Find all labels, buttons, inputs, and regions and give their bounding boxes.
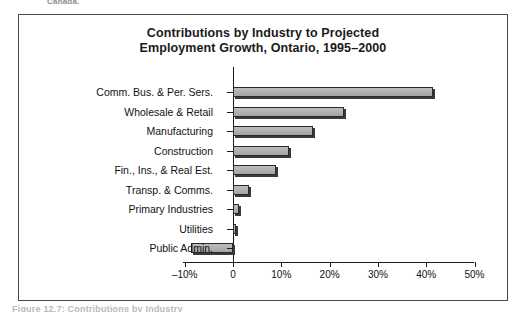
bar[interactable] bbox=[233, 165, 276, 175]
clipped-caption-below-figure: Figure 12.7: Contributions by Industry bbox=[12, 304, 183, 312]
category-tick bbox=[227, 131, 233, 132]
x-axis-tick bbox=[185, 262, 186, 267]
x-axis-tick bbox=[281, 262, 282, 267]
bar[interactable] bbox=[233, 107, 344, 117]
x-axis-line bbox=[183, 262, 474, 263]
category-tick bbox=[227, 92, 233, 93]
x-axis-tick bbox=[330, 262, 331, 267]
x-axis-tick-label: 40% bbox=[404, 269, 448, 280]
figure-container: Contributions by Industry to Projected E… bbox=[18, 14, 508, 301]
category-label: Construction bbox=[154, 145, 213, 157]
category-tick bbox=[227, 190, 233, 191]
x-axis-tick-label: 50% bbox=[453, 269, 497, 280]
category-label: Comm. Bus. & Per. Sers. bbox=[96, 86, 213, 98]
x-axis-tick-label: 20% bbox=[308, 269, 352, 280]
bar[interactable] bbox=[233, 185, 249, 195]
category-label: Manufacturing bbox=[146, 125, 213, 137]
category-tick bbox=[227, 112, 233, 113]
bar[interactable] bbox=[233, 204, 239, 214]
bar[interactable] bbox=[233, 87, 433, 97]
category-label: Wholesale & Retail bbox=[124, 106, 213, 118]
bar[interactable] bbox=[233, 146, 289, 156]
category-label: Primary Industries bbox=[128, 203, 213, 215]
bar[interactable] bbox=[233, 224, 236, 234]
bar[interactable] bbox=[233, 126, 313, 136]
x-axis-tick bbox=[233, 262, 234, 267]
category-label: Transp. & Comms. bbox=[126, 184, 213, 196]
x-axis-tick bbox=[475, 262, 476, 267]
category-tick bbox=[227, 229, 233, 230]
category-label: Utilities bbox=[179, 223, 213, 235]
plot-area: Comm. Bus. & Per. Sers.Wholesale & Retai… bbox=[19, 15, 509, 302]
x-axis-tick-label: 10% bbox=[259, 269, 303, 280]
clipped-text-above-figure: Canada. bbox=[47, 0, 80, 5]
category-tick bbox=[227, 151, 233, 152]
category-tick bbox=[227, 170, 233, 171]
x-axis-tick-label: –10% bbox=[163, 269, 207, 280]
x-axis-tick-label: 30% bbox=[356, 269, 400, 280]
category-label: Fin., Ins., & Real Est. bbox=[114, 164, 213, 176]
category-tick bbox=[227, 248, 233, 249]
x-axis-tick bbox=[378, 262, 379, 267]
category-tick bbox=[227, 209, 233, 210]
category-label: Public Admin. bbox=[149, 242, 213, 254]
x-axis-tick bbox=[426, 262, 427, 267]
x-axis-tick-label: 0 bbox=[211, 269, 255, 280]
